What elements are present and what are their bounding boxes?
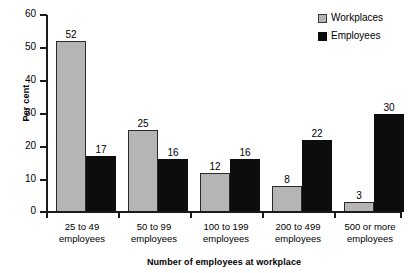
bar-value-workplaces-100-to-199: 12 <box>209 161 220 172</box>
bar-value-workplaces-500-or-more: 3 <box>356 190 362 201</box>
x-category-line1-100-to-199: 100 to 199 <box>204 221 249 232</box>
bar-value-workplaces-50-to-99: 25 <box>137 118 148 129</box>
y-tick-20 <box>40 146 47 148</box>
x-tick-1 <box>118 211 120 218</box>
bar-value-employees-25-to-49: 17 <box>95 144 106 155</box>
y-tick-label-0: 0 <box>10 206 36 216</box>
x-category-line2-500-or-more: employees <box>327 233 413 245</box>
bar-group-100-to-199: 12 16 <box>200 15 260 212</box>
x-axis-title: Number of employees at workplace <box>46 257 402 267</box>
legend-label-employees: Employees <box>331 31 380 41</box>
chart-legend: Workplaces Employees <box>318 12 383 48</box>
bar-group-50-to-99: 25 16 <box>128 15 188 212</box>
bar-value-employees-200-to-499: 22 <box>311 128 322 139</box>
x-tick-3 <box>262 211 264 218</box>
x-category-line1-500-or-more: 500 or more <box>344 221 395 232</box>
legend-swatch-icon-employees <box>318 32 327 41</box>
x-tick-2 <box>190 211 192 218</box>
bar-value-workplaces-200-to-499: 8 <box>284 174 290 185</box>
x-axis-line <box>46 211 402 213</box>
legend-item-workplaces[interactable]: Workplaces <box>318 12 383 24</box>
y-tick-label-10: 10 <box>10 174 36 184</box>
bar-value-employees-100-to-199: 16 <box>239 147 250 158</box>
legend-label-workplaces: Workplaces <box>331 13 383 23</box>
y-tick-10 <box>40 179 47 181</box>
bar-employees-50-to-99[interactable]: 16 <box>158 159 188 212</box>
bar-workplaces-50-to-99[interactable]: 25 <box>128 130 158 212</box>
x-category-line1-25-to-49: 25 to 49 <box>65 221 99 232</box>
y-tick-30 <box>40 113 47 115</box>
bar-value-employees-500-or-more: 30 <box>383 102 394 113</box>
bar-chart: Per cent 60 50 40 30 20 10 0 52 17 25 16 <box>0 0 416 273</box>
x-category-line1-50-to-99: 50 to 99 <box>137 221 171 232</box>
bar-group-25-to-49: 52 17 <box>56 15 116 212</box>
bar-employees-25-to-49[interactable]: 17 <box>86 156 116 212</box>
y-tick-label-40: 40 <box>10 75 36 85</box>
bar-employees-500-or-more[interactable]: 30 <box>374 114 404 213</box>
bar-value-workplaces-25-to-49: 52 <box>65 29 76 40</box>
x-tick-5 <box>400 211 402 218</box>
legend-swatch-icon-workplaces <box>318 14 327 23</box>
bar-workplaces-100-to-199[interactable]: 12 <box>200 173 230 212</box>
y-tick-60 <box>40 14 47 16</box>
y-tick-label-60: 60 <box>10 9 36 19</box>
bar-workplaces-25-to-49[interactable]: 52 <box>56 41 86 212</box>
bar-workplaces-200-to-499[interactable]: 8 <box>272 186 302 212</box>
y-tick-label-30: 30 <box>10 108 36 118</box>
bar-employees-100-to-199[interactable]: 16 <box>230 159 260 212</box>
x-category-label-500-or-more: 500 or more employees <box>327 221 413 245</box>
x-tick-4 <box>334 211 336 218</box>
x-tick-0 <box>46 211 48 218</box>
legend-item-employees[interactable]: Employees <box>318 30 383 42</box>
y-tick-label-20: 20 <box>10 141 36 151</box>
bar-value-employees-50-to-99: 16 <box>167 147 178 158</box>
x-category-line1-200-to-499: 200 to 499 <box>276 221 321 232</box>
bar-employees-200-to-499[interactable]: 22 <box>302 140 332 212</box>
y-tick-50 <box>40 47 47 49</box>
y-tick-40 <box>40 80 47 82</box>
y-tick-label-50: 50 <box>10 42 36 52</box>
